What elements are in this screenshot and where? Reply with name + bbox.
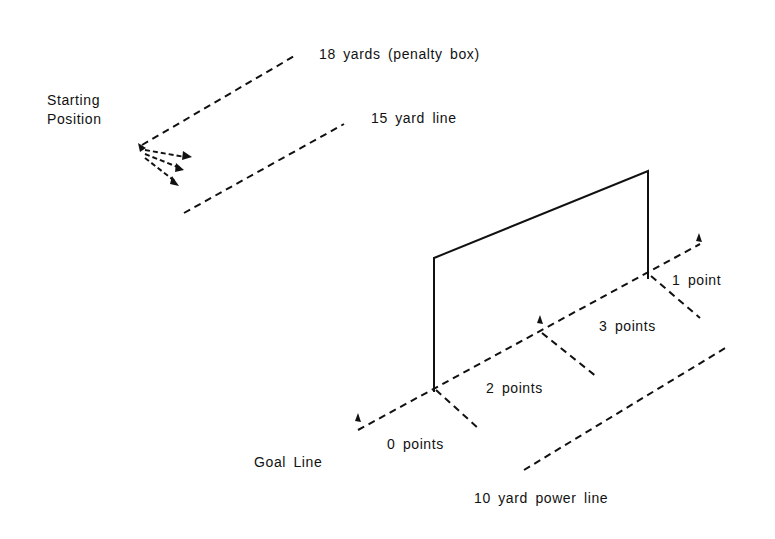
penalty-box-label: 18 yards (penalty box)	[319, 46, 480, 62]
diagram-canvas	[0, 0, 775, 539]
divider-2-3	[542, 333, 597, 377]
marker-3pt-icon	[537, 315, 543, 324]
goal-line-label: Goal Line	[254, 454, 322, 470]
fifteen-yard-label: 15 yard line	[371, 110, 457, 126]
arrowhead-icon	[182, 151, 192, 160]
marker-1pt-icon	[696, 233, 702, 242]
two-points-label: 2 points	[486, 380, 543, 396]
start-arrow-1	[145, 150, 185, 157]
start-arrow-3	[145, 158, 176, 182]
zero-points-label: 0 points	[387, 436, 444, 452]
starting-label-line2: Position	[47, 111, 102, 127]
penalty-box-line	[142, 55, 296, 145]
arrowhead-icon	[175, 163, 184, 172]
starting-position-label: Starting Position	[47, 92, 102, 127]
goal-line	[358, 244, 700, 430]
goal-frame	[434, 171, 648, 392]
start-arrow-2	[145, 154, 180, 168]
power-line-label: 10 yard power line	[474, 490, 608, 506]
divider-0-2	[436, 390, 478, 428]
fifteen-yard-line	[184, 124, 344, 213]
three-points-label: 3 points	[599, 318, 656, 334]
marker-goal-line-icon	[355, 413, 361, 422]
power-line	[524, 347, 727, 470]
starting-label-line1: Starting	[47, 92, 102, 108]
one-point-label: 1 point	[672, 272, 721, 288]
